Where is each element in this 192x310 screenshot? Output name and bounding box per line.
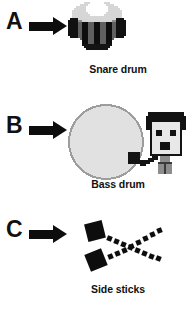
instrument-figure: A: [0, 0, 192, 310]
panel-letter-c: C: [6, 218, 23, 241]
caption-snare-drum: Snare drum: [0, 63, 192, 75]
right-arrow-icon: [29, 17, 69, 36]
bass-drum-icon: [60, 104, 190, 180]
panel-snare-drum: A: [0, 0, 192, 104]
side-sticks-icon: [84, 218, 168, 278]
arrow-head: [53, 225, 67, 243]
caption-bass-drum: Bass drum: [0, 178, 192, 190]
caption-side-sticks: Side sticks: [0, 283, 192, 295]
panel-letter-b: B: [6, 114, 23, 137]
panel-letter-a: A: [6, 10, 23, 33]
arrow-head: [53, 17, 67, 35]
right-arrow-icon: [29, 225, 69, 244]
arrow-shaft: [29, 126, 55, 135]
arrow-shaft: [29, 230, 55, 239]
arrow-shaft: [29, 22, 55, 31]
snare-drum-icon: [68, 2, 126, 58]
